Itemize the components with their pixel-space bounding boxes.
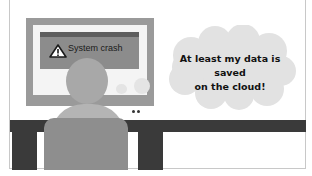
warning-triangle-icon	[49, 44, 67, 58]
power-light	[137, 110, 140, 113]
thought-dot-small	[116, 84, 127, 94]
person-torso	[44, 118, 128, 170]
desk-leg-left	[12, 132, 37, 170]
dialog-message: System crash	[68, 43, 123, 53]
power-light	[132, 110, 135, 113]
thought-line-1: At least my data is saved	[163, 52, 297, 80]
person-head	[66, 58, 108, 104]
thought-text: At least my data is saved on the cloud!	[163, 52, 297, 94]
thought-dot-large	[134, 78, 150, 94]
thought-line-2: on the cloud!	[163, 80, 297, 94]
dialog-title-bar	[40, 32, 139, 37]
desk-leg-right	[138, 132, 163, 170]
monitor-power-lights	[132, 98, 142, 117]
